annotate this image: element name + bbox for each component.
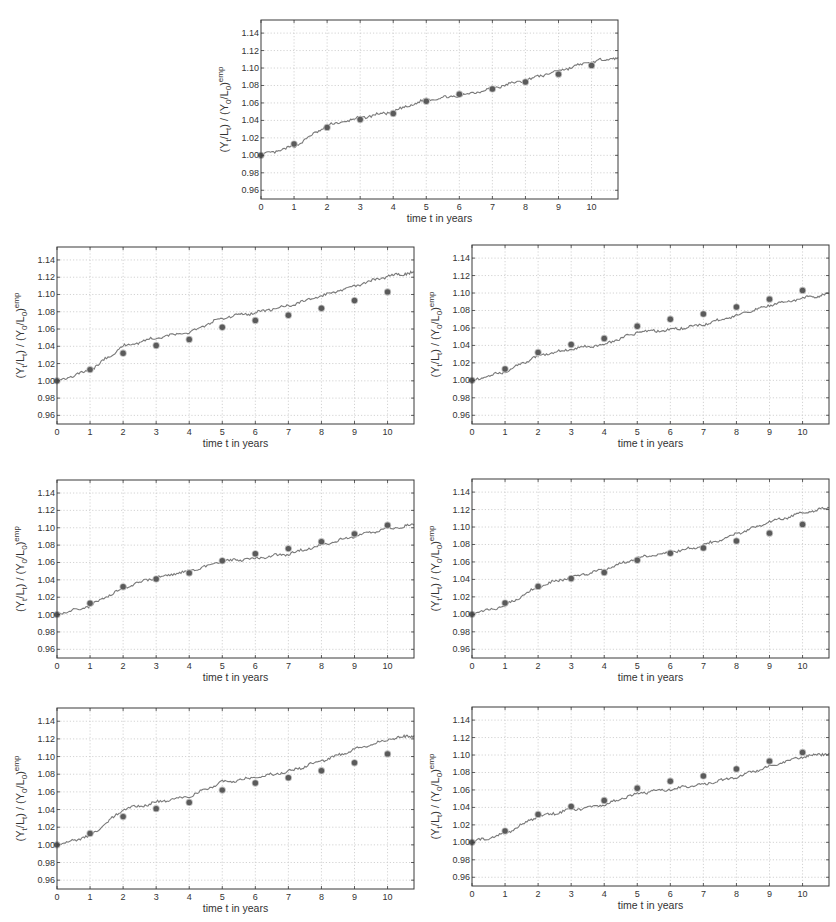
x-tick-label: 9: [767, 661, 772, 671]
x-tick-label: 0: [469, 427, 474, 437]
plot-frame: [261, 20, 618, 199]
y-tick-label: 1.00: [37, 840, 55, 850]
x-tick-label: 4: [187, 892, 192, 902]
x-tick-label: 6: [253, 661, 258, 671]
data-point-marker: [187, 337, 192, 342]
x-tick-label: 3: [154, 661, 159, 671]
y-axis-label: (Yt/Lt) / (Y0/L0)emp: [427, 525, 444, 611]
y-axis-label: (Yt/Lt) / (Y0/L0)emp: [216, 66, 233, 152]
x-tick-label: 10: [383, 892, 393, 902]
x-tick-label: 1: [88, 427, 93, 437]
y-tick-label: 1.06: [452, 785, 470, 795]
chart-svg: 0123456789100.960.981.001.021.041.061.08…: [9, 474, 420, 686]
x-tick-label: 7: [701, 661, 706, 671]
grid: [57, 247, 414, 424]
data-point-marker: [602, 798, 607, 803]
data-point-marker: [502, 366, 507, 371]
data-point-marker: [153, 806, 158, 811]
data-point-marker: [734, 538, 739, 543]
x-tick-label: 9: [352, 427, 357, 437]
plot-frame: [57, 480, 414, 658]
simulated-series-line: [57, 271, 414, 380]
simulated-series-line: [472, 753, 829, 843]
data-point-marker: [187, 800, 192, 805]
data-point-marker: [286, 775, 291, 780]
x-axis-label: time t in years: [203, 437, 268, 449]
data-point-marker: [220, 787, 225, 792]
grid: [57, 708, 414, 889]
y-tick-label: 1.02: [452, 592, 470, 602]
data-point-marker: [635, 786, 640, 791]
x-tick-label: 10: [798, 889, 808, 899]
y-tick-label: 1.14: [37, 488, 55, 498]
x-tick-label: 4: [602, 661, 607, 671]
x-tick-label: 4: [187, 661, 192, 671]
data-point-marker: [767, 758, 772, 763]
simulated-series-line: [261, 58, 618, 156]
data-point-marker: [535, 812, 540, 817]
data-point-marker: [187, 570, 192, 575]
data-point-marker: [457, 92, 462, 97]
data-point-marker: [120, 584, 125, 589]
y-tick-label: 0.96: [37, 644, 55, 654]
chart-panel-row3-left: 0123456789100.960.981.001.021.041.061.08…: [9, 474, 420, 690]
simulated-series-line: [57, 524, 414, 616]
y-tick-label: 1.00: [37, 376, 55, 386]
y-axis-label: (Yt/Lt) / (Y0/L0)emp: [427, 753, 444, 839]
grid: [261, 20, 618, 199]
data-point-marker: [391, 111, 396, 116]
y-tick-label: 1.10: [452, 750, 470, 760]
x-tick-label: 2: [536, 661, 541, 671]
simulated-series-line: [57, 735, 414, 846]
x-tick-label: 8: [734, 427, 739, 437]
y-tick-label: 1.04: [37, 805, 55, 815]
y-tick-label: 1.10: [241, 63, 259, 73]
data-point-marker: [502, 600, 507, 605]
data-point-marker: [701, 545, 706, 550]
chart-panel-row3-right: 0123456789100.960.981.001.021.041.061.08…: [424, 473, 835, 690]
data-point-marker: [800, 288, 805, 293]
data-point-marker: [352, 298, 357, 303]
y-tick-label: 1.14: [37, 255, 55, 265]
data-point-marker: [220, 558, 225, 563]
x-tick-label: 1: [503, 427, 508, 437]
data-point-marker: [800, 750, 805, 755]
y-tick-label: 1.02: [37, 592, 55, 602]
chart-panel-row4-left: 0123456789100.960.981.001.021.041.061.08…: [9, 702, 420, 921]
y-tick-label: 1.12: [241, 46, 259, 56]
data-point-marker: [490, 86, 495, 91]
y-tick-label: 1.06: [452, 323, 470, 333]
chart-svg: 0123456789100.960.981.001.021.041.061.08…: [9, 702, 420, 917]
data-point-marker: [568, 804, 573, 809]
x-tick-label: 6: [253, 427, 258, 437]
x-tick-label: 1: [88, 661, 93, 671]
y-tick-label: 1.12: [37, 734, 55, 744]
x-tick-label: 3: [569, 427, 574, 437]
plot-frame: [57, 708, 414, 889]
y-tick-label: 0.98: [37, 858, 55, 868]
data-point-marker: [556, 71, 561, 76]
y-tick-label: 1.04: [452, 574, 470, 584]
grid: [472, 479, 829, 658]
x-tick-label: 5: [635, 889, 640, 899]
x-tick-label: 5: [424, 202, 429, 212]
x-tick-label: 5: [635, 661, 640, 671]
y-tick-label: 1.00: [452, 837, 470, 847]
x-tick-label: 6: [253, 892, 258, 902]
y-tick-label: 1.00: [37, 610, 55, 620]
x-tick-label: 3: [569, 889, 574, 899]
y-tick-label: 1.10: [452, 522, 470, 532]
x-tick-label: 8: [523, 202, 528, 212]
y-tick-label: 1.04: [37, 341, 55, 351]
x-tick-label: 10: [798, 427, 808, 437]
data-point-marker: [87, 601, 92, 606]
y-tick-label: 1.08: [37, 769, 55, 779]
x-axis-label: time t in years: [618, 437, 683, 449]
x-tick-label: 10: [383, 661, 393, 671]
data-point-marker: [668, 551, 673, 556]
x-tick-label: 2: [536, 427, 541, 437]
x-tick-label: 8: [319, 427, 324, 437]
data-point-marker: [87, 831, 92, 836]
y-tick-label: 1.08: [241, 80, 259, 90]
y-tick-label: 1.14: [452, 487, 470, 497]
